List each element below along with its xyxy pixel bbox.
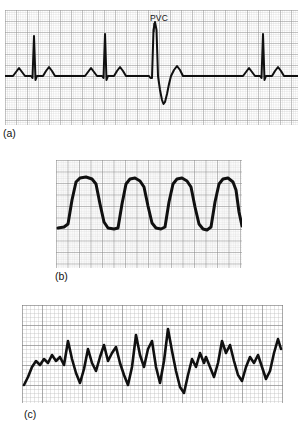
ecg-panel-a xyxy=(5,10,298,125)
panel-label-a: (a) xyxy=(3,128,16,139)
ecg-figure: PVC (a) (b) xyxy=(0,0,306,446)
ecg-trace-a xyxy=(5,10,298,125)
panel-label-c: (c) xyxy=(24,409,36,420)
panel-label-b: (b) xyxy=(55,271,68,282)
pvc-annotation-label: PVC xyxy=(150,13,168,23)
ecg-trace-c xyxy=(22,305,283,403)
ecg-trace-b xyxy=(56,160,242,268)
ecg-panel-b xyxy=(56,160,242,268)
ecg-panel-c xyxy=(22,305,283,403)
